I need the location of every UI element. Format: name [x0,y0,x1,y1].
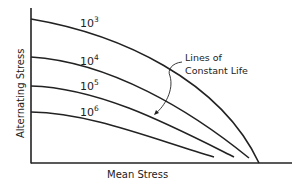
curve-10e5 [31,86,234,157]
curve-label-10e6: 106 [80,104,99,119]
curve-label-10e3: 103 [80,15,99,30]
curve-10e6 [31,112,214,157]
curve-label-10e4: 104 [80,53,99,68]
constant-life-diagram: 103 104 105 106 Lines of Constant Life M… [0,0,303,193]
x-axis-label: Mean Stress [107,169,168,180]
annotation-line1: Lines of [185,52,223,63]
annotation-arrow [155,62,182,114]
curve-label-10e5: 105 [80,78,99,93]
annotation-line2: Constant Life [185,65,248,76]
y-axis-label: Alternating Stress [15,49,26,138]
